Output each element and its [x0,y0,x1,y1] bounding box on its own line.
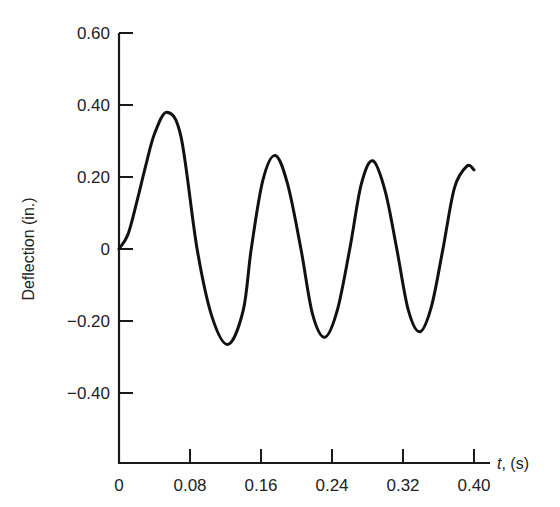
series-layer [119,112,474,344]
x-axis-title: t, (s) [497,455,529,472]
y-tick-label: 0.60 [77,24,110,43]
y-tick-label: −0.40 [67,384,110,403]
y-tick-label: −0.20 [67,312,110,331]
x-tick-label: 0 [114,476,123,495]
series-line-deflection [119,112,474,344]
x-tick-label: 0.40 [457,476,490,495]
x-tick-label: 0.08 [173,476,206,495]
y-ticks: 0.600.400.200−0.20−0.40 [67,24,133,403]
x-tick-label: 0.16 [244,476,277,495]
x-ticks: 00.080.160.240.320.40 [114,449,490,495]
y-tick-label: 0.20 [77,168,110,187]
deflection-chart: 0.600.400.200−0.20−0.40 00.080.160.240.3… [0,0,560,507]
y-tick-label: 0.40 [77,96,110,115]
axes [118,33,490,464]
x-tick-label: 0.32 [386,476,419,495]
y-tick-label: 0 [101,240,110,259]
y-axis-title: Deflection (in.) [20,197,37,300]
x-axis-title-unit: , (s) [501,455,529,472]
x-tick-label: 0.24 [315,476,348,495]
